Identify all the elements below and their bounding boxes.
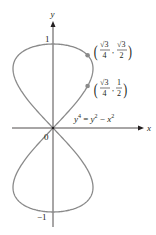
point-label-upper: ( √3 4 , √3 2 ): [94, 40, 132, 62]
figure-canvas: y x 0 1 −1 ( √3 4 , √3 2 ) ( √3 4 , 1 2 …: [0, 0, 156, 235]
svg-text:,: ,: [112, 46, 114, 55]
point-label-lower: ( √3 4 , 1 2 ): [94, 78, 127, 100]
upper-y-num: √3: [117, 40, 125, 49]
svg-text:): ): [123, 80, 127, 100]
lower-y-num: 1: [117, 78, 121, 87]
y-tick-top-label: 1: [45, 34, 50, 44]
upper-y-den: 2: [120, 51, 124, 60]
upper-x-den: 4: [103, 51, 107, 60]
lower-x-num: √3: [100, 78, 108, 87]
origin-label: 0: [44, 132, 49, 142]
svg-text:(: (: [94, 42, 98, 62]
lower-x-den: 4: [103, 89, 107, 98]
x-axis-label: x: [146, 123, 151, 133]
svg-text:(: (: [94, 80, 98, 100]
point-marker-upper: [85, 53, 90, 58]
upper-x-num: √3: [100, 40, 108, 49]
point-marker-lower: [85, 84, 90, 89]
lower-y-den: 2: [117, 89, 121, 98]
equation-label: y4 = y2 − x2: [73, 113, 114, 124]
svg-text:): ): [128, 42, 132, 62]
x-axis-arrow-icon: [138, 126, 144, 131]
origin-dot: [52, 127, 55, 130]
curve-plot: y x 0 1 −1 ( √3 4 , √3 2 ) ( √3 4 , 1 2 …: [0, 0, 156, 235]
y-axis-arrow-icon: [51, 21, 56, 27]
y-axis-label: y: [50, 9, 55, 19]
y-tick-bottom-label: −1: [37, 212, 47, 222]
svg-text:,: ,: [112, 84, 114, 93]
